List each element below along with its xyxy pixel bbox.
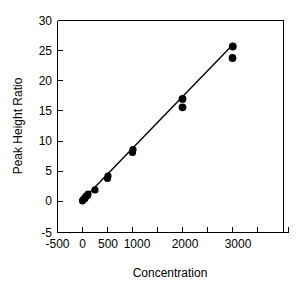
y-tick-label-25: 25	[39, 44, 53, 58]
y-tick-label-5: 5	[45, 164, 52, 178]
plot-frame	[58, 21, 289, 233]
y-axis-title: Peak Height Ratio	[11, 77, 25, 174]
x-axis-ticks	[58, 227, 289, 233]
x-tick-label-1000: 1000	[124, 237, 151, 251]
frame-top-right	[58, 21, 284, 233]
data-point	[179, 103, 187, 111]
chart-figure: 30 25 20 15 10 5 0 -5 -500 0 500	[0, 0, 302, 291]
data-point	[179, 95, 187, 103]
y-tick-label-0: 0	[45, 194, 52, 208]
data-point	[229, 43, 237, 51]
y-tick-label-30: 30	[39, 14, 53, 28]
x-tick-label-minus500: -500	[45, 237, 69, 251]
x-tick-label-2000: 2000	[172, 237, 199, 251]
x-tick-label-0: 0	[79, 237, 86, 251]
y-tick-label-20: 20	[39, 74, 53, 88]
x-axis-title: Concentration	[133, 266, 208, 280]
data-point	[84, 191, 91, 198]
scatter-plot: 30 25 20 15 10 5 0 -5 -500 0 500	[0, 0, 302, 291]
y-tick-label-15: 15	[39, 104, 53, 118]
x-axis-tick-labels: -500 0 500 1000 2000 3000	[45, 237, 251, 251]
y-axis-tick-labels: 30 25 20 15 10 5 0 -5	[39, 14, 53, 240]
data-point	[91, 186, 98, 193]
y-axis-ticks	[58, 21, 63, 233]
x-tick-label-500: 500	[98, 237, 118, 251]
x-tick-label-3000: 3000	[225, 237, 252, 251]
data-point	[104, 173, 111, 180]
data-point	[129, 146, 136, 153]
data-point	[229, 54, 237, 62]
y-tick-label-10: 10	[39, 134, 53, 148]
